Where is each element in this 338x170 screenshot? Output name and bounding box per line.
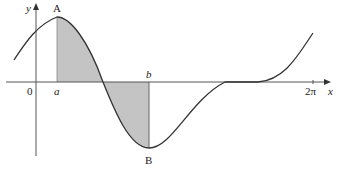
a-label: a	[54, 86, 60, 97]
min-point-label: B	[145, 155, 152, 166]
x-axis-label: x	[328, 86, 333, 97]
shaded-area-negative	[103, 82, 149, 148]
b-label: b	[146, 69, 152, 80]
x-tick-label: 2π	[305, 86, 316, 97]
y-axis-arrow-icon	[33, 3, 39, 10]
graph-figure: y A 0 a b B 2π x	[0, 0, 338, 170]
y-axis-label: y	[26, 3, 31, 14]
origin-label: 0	[27, 86, 33, 97]
shaded-area-positive	[57, 17, 103, 82]
graph-svg	[0, 0, 338, 170]
max-point-label: A	[53, 3, 61, 14]
